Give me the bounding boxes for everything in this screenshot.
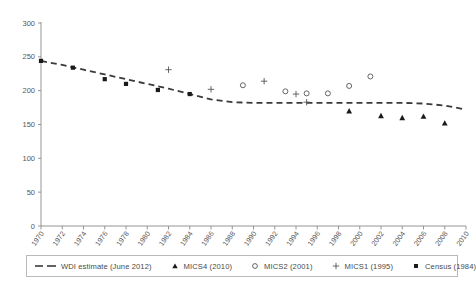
x-axis-tick-label: 1974 (72, 229, 89, 247)
y-axis-tick-label: 200 (22, 86, 35, 95)
x-axis-tick-label: 1988 (221, 229, 238, 247)
data-point-square (188, 92, 192, 96)
data-point-triangle (421, 113, 427, 118)
x-axis-tick-label: 2006 (412, 229, 429, 247)
x-axis-tick-label: 1976 (93, 229, 110, 247)
legend-item-label: MICS4 (2010) (184, 262, 232, 271)
legend-item-circle[interactable]: MICS2 (2001) (246, 261, 312, 271)
x-axis-tick-label: 1970 (29, 229, 46, 247)
chart-legend: WDI estimate (June 2012)MICS4 (2010)MICS… (26, 255, 458, 277)
y-axis-tick-label: 250 (22, 52, 35, 61)
x-axis-tick-label: 2000 (348, 229, 365, 247)
y-axis-tick-label: 150 (22, 120, 35, 129)
data-point-square (39, 59, 43, 63)
plus-icon (327, 261, 345, 271)
y-axis-tick-label: 50 (27, 188, 35, 197)
x-axis-tick-label: 1980 (136, 229, 153, 247)
x-axis-tick-label: 1992 (263, 229, 280, 247)
x-axis-tick-label: 1986 (199, 229, 216, 247)
legend-item-dashed-line[interactable]: WDI estimate (June 2012) (33, 261, 152, 271)
square-icon (407, 261, 425, 271)
data-point-circle (368, 74, 373, 79)
legend-item-label: MICS2 (2001) (264, 262, 312, 271)
legend-item-square[interactable]: Census (1984) (407, 261, 476, 271)
data-point-circle (240, 83, 245, 88)
x-axis-tick-label: 1972 (51, 229, 68, 247)
legend-item-label: WDI estimate (June 2012) (61, 262, 152, 271)
data-point-triangle (442, 120, 448, 125)
x-axis-tick-label: 1984 (178, 229, 195, 247)
legend-item-label: Census (1984) (425, 262, 476, 271)
x-axis-tick-label: 1996 (306, 229, 323, 247)
x-axis-tick-label: 1978 (114, 229, 131, 247)
x-axis-tick-label: 1990 (242, 229, 259, 247)
data-point-circle (347, 83, 352, 88)
data-point-square (103, 77, 107, 81)
data-point-square (71, 66, 75, 70)
x-axis-tick-label: 2010 (454, 229, 471, 247)
legend-item-plus[interactable]: MICS1 (1995) (327, 261, 393, 271)
data-point-triangle (378, 113, 384, 118)
series-line-wdi-estimate (41, 61, 466, 110)
data-point-square (156, 88, 160, 92)
data-point-square (124, 82, 128, 86)
y-axis-tick-label: 100 (22, 154, 35, 163)
data-point-triangle (346, 108, 352, 113)
y-axis-tick-label: 0 (31, 222, 35, 231)
legend-item-triangle[interactable]: MICS4 (2010) (166, 261, 232, 271)
data-point-triangle (399, 115, 405, 120)
dashed-line-icon (33, 261, 61, 271)
x-axis-tick-label: 2002 (369, 229, 386, 247)
data-point-circle (283, 89, 288, 94)
triangle-icon (166, 261, 184, 271)
x-axis-tick-label: 1998 (327, 229, 344, 247)
x-axis-tick-label: 1994 (284, 229, 301, 247)
x-axis-tick-label: 1982 (157, 229, 174, 247)
data-point-circle (304, 91, 309, 96)
circle-icon (246, 261, 264, 271)
y-axis-tick-label: 300 (22, 19, 35, 28)
data-point-circle (325, 91, 330, 96)
legend-item-label: MICS1 (1995) (345, 262, 393, 271)
x-axis-tick-label: 2008 (433, 229, 450, 247)
x-axis-tick-label: 2004 (391, 229, 408, 247)
